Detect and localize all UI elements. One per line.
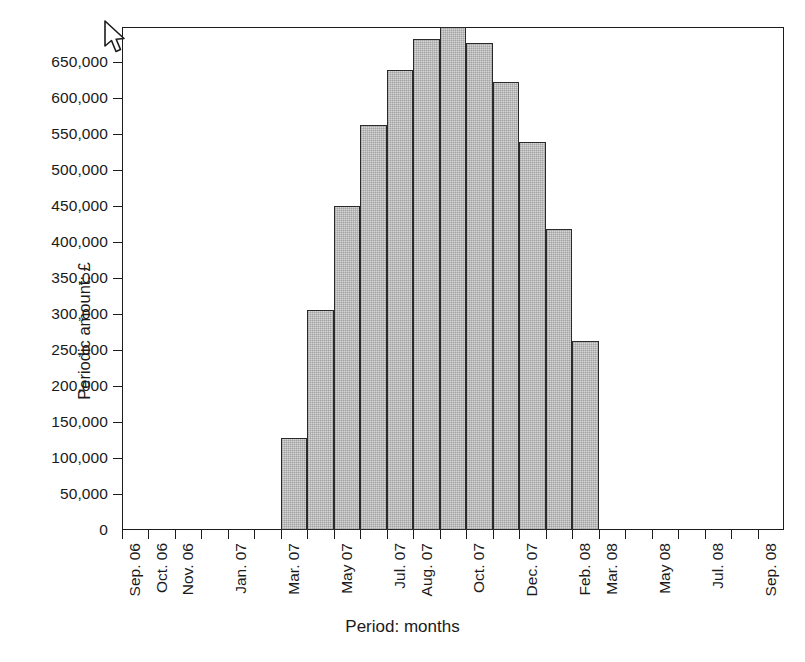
- y-axis-tick-label: 150,000: [0, 413, 108, 431]
- y-axis-tick: [113, 170, 122, 171]
- bar: [572, 341, 598, 530]
- x-axis-tick-label: May 08: [657, 543, 673, 594]
- y-axis-tick-label: 200,000: [0, 377, 108, 395]
- y-axis-tick: [113, 386, 122, 387]
- y-axis-tick: [113, 314, 122, 315]
- x-axis-tick: [519, 530, 520, 539]
- y-axis-tick: [113, 350, 122, 351]
- x-axis-tick: [652, 530, 653, 539]
- x-axis-tick-label: Oct. 06: [154, 543, 170, 593]
- x-axis-title: Period: months: [0, 617, 805, 637]
- x-axis-tick-label: Feb. 08: [577, 543, 593, 596]
- y-axis-tick-label: 400,000: [0, 233, 108, 251]
- y-axis-tick-label: 100,000: [0, 449, 108, 467]
- y-axis-tick-label: 350,000: [0, 269, 108, 287]
- mouse-pointer-icon: [103, 20, 129, 54]
- y-axis-tick: [113, 278, 122, 279]
- x-axis-tick-label: Sep. 06: [127, 543, 143, 596]
- bar: [387, 70, 413, 530]
- x-axis-tick: [122, 530, 123, 539]
- x-axis-tick: [307, 530, 308, 539]
- chart-page: Periodic amount: £ 050,000100,000150,000…: [0, 0, 805, 662]
- x-axis-tick: [387, 530, 388, 539]
- x-axis-tick: [758, 530, 759, 539]
- bar: [493, 82, 519, 530]
- x-axis-tick: [413, 530, 414, 539]
- y-axis-tick-label: 50,000: [0, 485, 108, 503]
- y-axis-tick: [113, 242, 122, 243]
- bar: [334, 206, 360, 530]
- y-axis-tick: [113, 98, 122, 99]
- y-axis-tick-label: 0: [0, 521, 108, 539]
- bar: [360, 125, 386, 530]
- y-axis-tick-label: 450,000: [0, 197, 108, 215]
- x-axis-tick: [731, 530, 732, 539]
- bar: [413, 39, 439, 530]
- x-axis-tick: [360, 530, 361, 539]
- x-axis-tick-label: Dec. 07: [524, 543, 540, 596]
- y-axis-tick: [113, 422, 122, 423]
- y-axis-tick: [113, 494, 122, 495]
- x-axis-tick: [572, 530, 573, 539]
- x-axis-tick: [678, 530, 679, 539]
- x-axis-tick-label: May 07: [339, 543, 355, 594]
- x-axis-tick: [625, 530, 626, 539]
- y-axis-tick-label: 550,000: [0, 125, 108, 143]
- x-axis-tick: [493, 530, 494, 539]
- x-axis-tick-label: Jul. 08: [710, 543, 726, 589]
- x-axis-tick: [254, 530, 255, 539]
- y-axis-tick: [113, 62, 122, 63]
- x-axis-tick-label: Nov. 06: [180, 543, 196, 595]
- bar: [307, 310, 333, 530]
- x-axis-tick-label: Sep. 08: [763, 543, 779, 596]
- bar: [466, 43, 492, 530]
- bar: [519, 142, 545, 530]
- x-axis-tick: [440, 530, 441, 539]
- y-axis-tick: [113, 458, 122, 459]
- x-axis-tick-label: Oct. 07: [471, 543, 487, 593]
- bar: [440, 27, 466, 530]
- bar: [546, 229, 572, 530]
- x-axis-tick: [281, 530, 282, 539]
- x-axis-tick: [334, 530, 335, 539]
- x-axis-tick: [148, 530, 149, 539]
- y-axis-tick-label: 500,000: [0, 161, 108, 179]
- x-axis-tick-label: Jul. 07: [392, 543, 408, 589]
- x-axis-tick: [546, 530, 547, 539]
- x-axis-tick-label: Aug. 07: [419, 543, 435, 596]
- x-axis-tick: [705, 530, 706, 539]
- x-axis-tick: [228, 530, 229, 539]
- x-axis-tick: [599, 530, 600, 539]
- x-axis-tick: [201, 530, 202, 539]
- y-axis-tick-label: 250,000: [0, 341, 108, 359]
- x-axis-tick-label: Mar. 07: [286, 543, 302, 595]
- y-axis-tick-label: 300,000: [0, 305, 108, 323]
- x-axis-tick-label: Jan. 07: [233, 543, 249, 594]
- bar: [281, 438, 307, 530]
- y-axis-tick-label: 650,000: [0, 53, 108, 71]
- x-axis-tick: [175, 530, 176, 539]
- x-axis-tick-label: Mar. 08: [604, 543, 620, 595]
- y-axis-tick-label: 600,000: [0, 89, 108, 107]
- y-axis-tick: [113, 134, 122, 135]
- x-axis-tick: [466, 530, 467, 539]
- y-axis-tick: [113, 206, 122, 207]
